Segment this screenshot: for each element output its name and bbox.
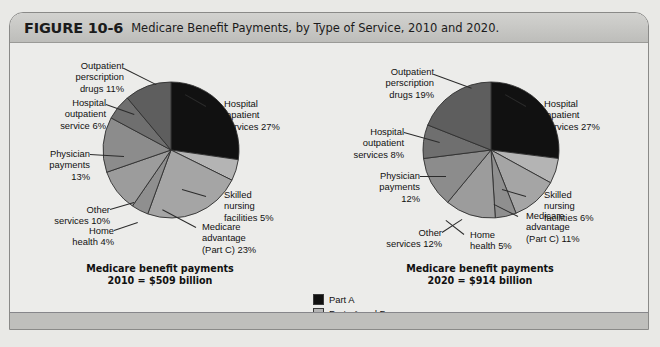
pie-slice-label: Medicare advantage (Part C) 11% bbox=[526, 210, 579, 244]
pie-slice-label: Hospital inpatient services 27% bbox=[224, 98, 280, 132]
legend-item-part-a: Part A bbox=[313, 292, 386, 306]
pie-slice-label: Other services 12% bbox=[382, 227, 442, 250]
figure-container: FIGURE 10-6 Medicare Benefit Payments, b… bbox=[9, 12, 649, 330]
label-leader-line bbox=[420, 176, 446, 177]
figure-number: FIGURE 10-6 bbox=[24, 20, 123, 36]
figure-header: FIGURE 10-6 Medicare Benefit Payments, b… bbox=[10, 13, 648, 43]
pie-caption-2020: Medicare benefit payments 2020 = $914 bi… bbox=[350, 263, 610, 287]
pie-slice-label: Hospital inpatient services 27% bbox=[544, 98, 600, 132]
pie-slice-label: Medicare advantage (Part C) 23% bbox=[202, 221, 256, 255]
figure-footer-band bbox=[10, 312, 648, 329]
legend-label-part-a: Part A bbox=[329, 294, 355, 305]
pie-panel-2020: Medicare benefit payments 2020 = $914 bi… bbox=[330, 44, 649, 314]
pie-slice-label: Physician payments 12% bbox=[350, 170, 420, 204]
figure-title: Medicare Benefit Payments, by Type of Se… bbox=[131, 21, 499, 35]
pie-slice-label: Outpatient perscription drugs 11% bbox=[46, 60, 124, 94]
figure-body: Medicare benefit payments 2010 = $509 bi… bbox=[10, 44, 648, 314]
pie-slice-label: Physician payments 13% bbox=[18, 148, 90, 182]
pie-slice-label: Outpatient perscription drugs 19% bbox=[356, 66, 434, 100]
pie-caption-2010: Medicare benefit payments 2010 = $509 bi… bbox=[30, 263, 290, 287]
pie-slice-label: Hospital outpatient service 6% bbox=[30, 97, 106, 131]
pie-chart-2020 bbox=[422, 81, 560, 219]
pie-slice-label: Hospital outpatient services 8% bbox=[340, 126, 404, 160]
pie-slice-label: Skilled nursing facilities 5% bbox=[224, 189, 274, 223]
pie-slice-label: Home health 5% bbox=[470, 229, 512, 252]
pie-panel-2010: Medicare benefit payments 2010 = $509 bi… bbox=[10, 44, 330, 314]
pie-slice-label: Home health 4% bbox=[40, 225, 114, 248]
label-leader-line bbox=[114, 222, 138, 231]
pie-chart-2010 bbox=[102, 81, 240, 219]
legend-swatch-part-a bbox=[313, 294, 324, 305]
pie-slice-label: Other services 10% bbox=[28, 204, 110, 227]
